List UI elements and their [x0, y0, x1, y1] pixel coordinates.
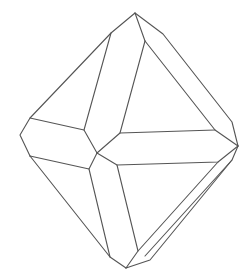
- edge-outer-lower-left: [30, 156, 126, 268]
- edge-lower-right-outer-bevel: [145, 160, 232, 256]
- crystal-diagram: [0, 0, 250, 272]
- edge-outer-upper-right: [135, 13, 238, 146]
- edge-lower-right-band: [138, 162, 218, 251]
- edge-center-to-inner-top: [97, 130, 215, 153]
- crystal-edges: [20, 13, 238, 268]
- edge-inner-left-band-bottom: [120, 41, 145, 133]
- edge-center-to-inner-bottom: [97, 146, 238, 165]
- edge-lower-band-right: [117, 165, 138, 268]
- edge-left-band-top: [30, 118, 97, 153]
- edge-left-band-bottom: [30, 153, 97, 169]
